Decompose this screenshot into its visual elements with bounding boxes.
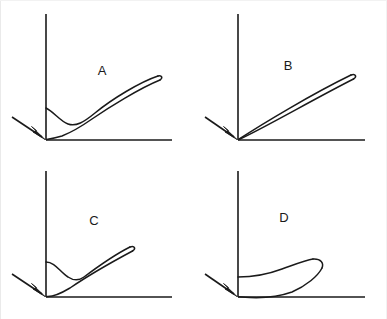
panel-c-label: C (89, 213, 98, 228)
panel-c-axes (46, 171, 172, 297)
panel-a-inflow-arrow (12, 117, 45, 140)
panel-a-label: A (98, 63, 107, 78)
panel-d-inflow-arrow (205, 274, 237, 297)
panel-c-inflow-arrow (12, 274, 45, 297)
figure-border (0, 0, 387, 319)
panel-d-axes (238, 171, 365, 297)
panel-d-label: D (279, 210, 288, 225)
panel-c: C (12, 171, 172, 297)
panel-b-label: B (284, 58, 293, 73)
panel-b: B (205, 14, 365, 140)
panel-d-loop-curve (238, 259, 323, 298)
panel-b-inflow-arrow (205, 117, 237, 140)
panel-c-loop-curve (46, 247, 135, 297)
four-panel-loop-diagram: A B (0, 0, 387, 319)
figure-container: A B (0, 0, 387, 319)
panel-b-loop-curve (239, 75, 356, 140)
panel-d: D (205, 171, 365, 298)
panel-a: A (12, 14, 172, 140)
panel-a-loop-curve (46, 76, 162, 140)
